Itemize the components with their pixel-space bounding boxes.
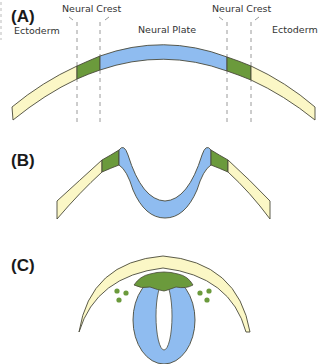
label-neural-crest-left: Neural Crest [62,3,121,14]
ectoderm-left [12,66,77,120]
neurulation-diagram: (A) Ectoderm Neural Crest Neural Plate N… [0,0,321,364]
label-ectoderm-left: Ectoderm [14,25,60,36]
ectoderm-right [251,66,315,120]
neural-crest-left [102,150,119,172]
leader-tick [69,17,73,20]
label-neural-crest-right: Neural Crest [212,3,271,14]
label-ectoderm-right: Ectoderm [272,24,318,35]
panel-a: (A) Ectoderm Neural Crest Neural Plate N… [1,2,318,124]
panel-a-label: (A) [11,7,35,26]
panel-c: (C) [11,256,250,364]
neural-plate [100,45,227,71]
leader-tick [255,17,259,20]
neural-crest-right [227,57,251,80]
neural-crest-left [77,56,100,79]
neural-crest-right [211,150,228,172]
neural-plate [119,147,211,218]
panel-b-label: (B) [11,151,35,170]
neural-tube-lumen [156,282,172,350]
leader-tick [219,17,223,20]
leader-tick [105,17,109,20]
ectoderm-right [228,160,270,219]
label-neural-plate: Neural Plate [138,24,196,35]
panel-c-label: (C) [11,256,35,275]
panel-b: (B) [11,147,270,219]
ectoderm-left [57,160,102,219]
dashed-guides [77,22,251,124]
